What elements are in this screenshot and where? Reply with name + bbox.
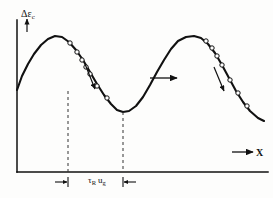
dimension-label: τRug [88,175,106,186]
y-axis-label: Δεc [21,8,35,21]
data-point-marker [95,84,99,88]
potential-energy-curve [17,36,264,121]
data-point-marker [220,63,224,67]
data-point-marker [245,104,249,108]
data-point-marker [210,46,214,50]
data-point-marker [105,96,109,100]
slope-arrow-right-icon [214,67,224,91]
data-point-marker [80,58,84,62]
x-axis-label: X [256,147,263,158]
data-point-marker [236,91,240,95]
plot-svg [0,0,273,198]
dimension-label-u-subscript: g [102,179,105,186]
y-axis-label-subscript: c [32,13,35,21]
data-point-marker [204,39,208,43]
data-point-marker [68,41,72,45]
data-point-marker [228,78,232,82]
y-axis-label-main: Δε [21,8,32,19]
data-point-marker [215,54,219,58]
figure-container: Δεc X τRug [0,0,273,198]
data-point-marker [75,50,79,54]
dimension-label-tau-subscript: R [92,179,96,186]
